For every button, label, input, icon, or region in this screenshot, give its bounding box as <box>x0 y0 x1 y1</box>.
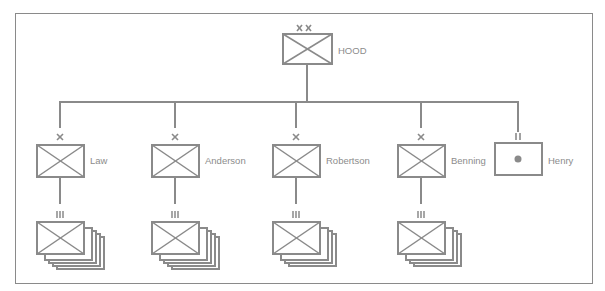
unit-label-henry: Henry <box>548 155 573 166</box>
unit-label-law: Law <box>90 155 107 166</box>
infantry-symbol-icon <box>398 145 445 177</box>
echelon-marker-xx-icon <box>297 25 311 31</box>
infantry-symbol-icon <box>37 145 84 177</box>
infantry-symbol-icon <box>273 145 320 177</box>
unit-label-anderson: Anderson <box>205 155 246 166</box>
unit-label-robertson: Robertson <box>326 155 370 166</box>
infantry-symbol-icon <box>283 34 332 64</box>
infantry-symbol-icon <box>152 145 199 177</box>
regiment-stack-anderson-icon <box>152 222 219 269</box>
unit-label-benning: Benning <box>451 155 486 166</box>
echelon-marker-iii-icon <box>57 211 424 218</box>
artillery-symbol-icon <box>495 143 542 175</box>
unit-label-hood: HOOD <box>338 45 367 56</box>
regiment-stack-robertson-icon <box>273 222 336 266</box>
echelon-marker-x-icon <box>57 134 424 140</box>
regiment-stack-benning-icon <box>398 222 461 266</box>
org-chart-lines <box>0 0 605 291</box>
regiment-stack-law-icon <box>37 222 104 269</box>
echelon-marker-ii-icon <box>516 133 520 140</box>
